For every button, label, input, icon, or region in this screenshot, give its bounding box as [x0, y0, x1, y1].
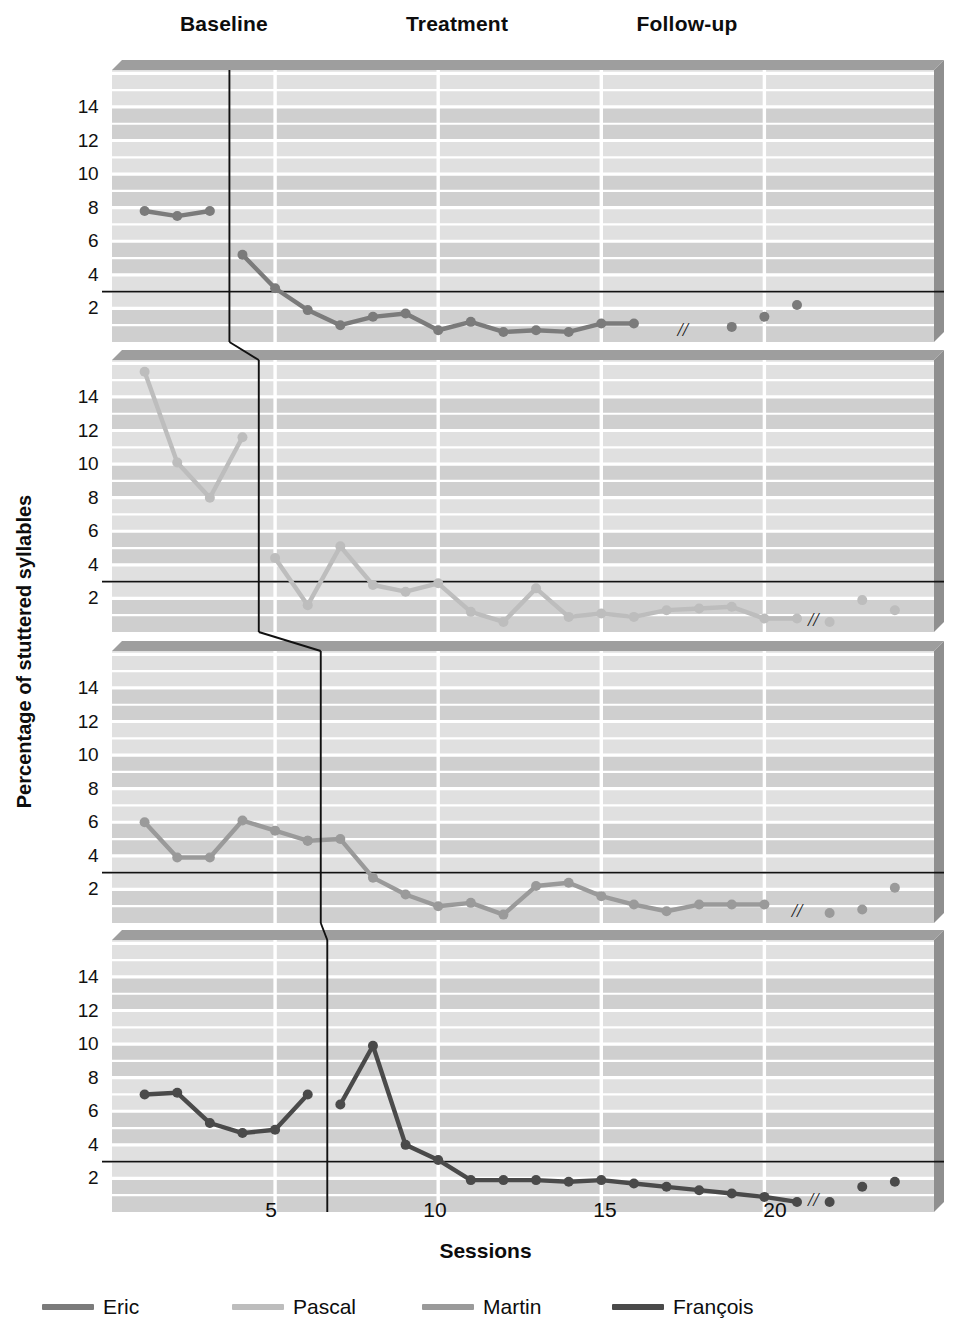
axis-break-marker: // [807, 609, 820, 630]
figure-root: BaselineTreatmentFollow-up Percentage of… [0, 0, 971, 1339]
data-point [335, 541, 345, 551]
y-tick-4: 4 [88, 554, 98, 576]
data-point [662, 1182, 672, 1192]
data-point [759, 900, 769, 910]
data-point [727, 1189, 737, 1199]
legend-label: François [673, 1295, 754, 1319]
axis-break-marker: // [791, 900, 804, 921]
data-point [498, 1175, 508, 1185]
data-point [498, 910, 508, 920]
y-tick-8: 8 [88, 1067, 98, 1089]
data-point [237, 250, 247, 260]
data-point [433, 325, 443, 335]
panel-eric: 1412108642// [0, 60, 971, 348]
data-point [205, 853, 215, 863]
data-point [368, 580, 378, 590]
y-tick-10: 10 [78, 1033, 98, 1055]
panel-martin: 1412108642// [0, 641, 971, 929]
data-point [466, 898, 476, 908]
y-tick-12: 12 [78, 420, 98, 442]
panel-top-bevel [112, 60, 944, 70]
legend-item-pascal[interactable]: Pascal [232, 1295, 356, 1319]
legend-item-franois[interactable]: François [612, 1295, 754, 1319]
data-point [825, 617, 835, 627]
x-tick-15: 15 [593, 1198, 616, 1222]
data-point [270, 283, 280, 293]
data-point [759, 312, 769, 322]
y-tick-12: 12 [78, 130, 98, 152]
y-tick-10: 10 [78, 453, 98, 475]
data-point [694, 1185, 704, 1195]
data-point [792, 614, 802, 624]
data-point [857, 595, 867, 605]
data-point [629, 612, 639, 622]
data-point [205, 206, 215, 216]
data-point [531, 1175, 541, 1185]
data-point [629, 319, 639, 329]
x-tick-10: 10 [423, 1198, 446, 1222]
y-tick-2: 2 [88, 1167, 98, 1189]
y-tick-14: 14 [78, 677, 98, 699]
y-tick-6: 6 [88, 520, 98, 542]
y-tick-6: 6 [88, 1100, 98, 1122]
data-point [270, 826, 280, 836]
legend-swatch-franois [612, 1304, 664, 1310]
data-point [466, 317, 476, 327]
y-tick-14: 14 [78, 386, 98, 408]
data-point [531, 881, 541, 891]
y-tick-12: 12 [78, 1000, 98, 1022]
panel-top-bevel [112, 930, 944, 940]
data-point [890, 605, 900, 615]
data-point [433, 1155, 443, 1165]
data-point [433, 578, 443, 588]
data-point [857, 905, 867, 915]
data-point [401, 889, 411, 899]
data-point [466, 607, 476, 617]
panel-right-bevel [934, 641, 944, 923]
data-point [433, 901, 443, 911]
data-point [531, 325, 541, 335]
legend-label: Martin [483, 1295, 541, 1319]
data-point [270, 553, 280, 563]
panel-right-bevel [934, 60, 944, 342]
data-point [368, 312, 378, 322]
legend-item-martin[interactable]: Martin [422, 1295, 541, 1319]
data-point [237, 816, 247, 826]
data-point [140, 1089, 150, 1099]
data-point [303, 600, 313, 610]
panel-plot: // [0, 60, 971, 350]
y-tick-8: 8 [88, 487, 98, 509]
panel-top-bevel [112, 641, 944, 651]
data-point [303, 836, 313, 846]
data-point [172, 211, 182, 221]
data-point [303, 1089, 313, 1099]
data-point [564, 1177, 574, 1187]
data-point [890, 1177, 900, 1187]
axis-break-marker: // [677, 319, 690, 340]
data-point [857, 1182, 867, 1192]
data-point [401, 587, 411, 597]
y-tick-4: 4 [88, 845, 98, 867]
data-point [172, 853, 182, 863]
data-point [237, 1128, 247, 1138]
y-tick-10: 10 [78, 163, 98, 185]
y-tick-2: 2 [88, 587, 98, 609]
phase-label-follow-up: Follow-up [637, 12, 738, 36]
legend: EricPascalMartinFrançois [0, 1292, 971, 1322]
y-tick-14: 14 [78, 966, 98, 988]
data-point [825, 1197, 835, 1207]
y-tick-4: 4 [88, 1134, 98, 1156]
data-point [564, 327, 574, 337]
data-point [335, 320, 345, 330]
data-point [303, 305, 313, 315]
data-point [596, 319, 606, 329]
legend-item-eric[interactable]: Eric [42, 1295, 139, 1319]
panel-top-bevel [112, 350, 944, 360]
y-tick-4: 4 [88, 264, 98, 286]
data-point [890, 883, 900, 893]
data-point [401, 1140, 411, 1150]
data-point [140, 817, 150, 827]
data-point [368, 873, 378, 883]
data-point [368, 1041, 378, 1051]
data-point [498, 617, 508, 627]
